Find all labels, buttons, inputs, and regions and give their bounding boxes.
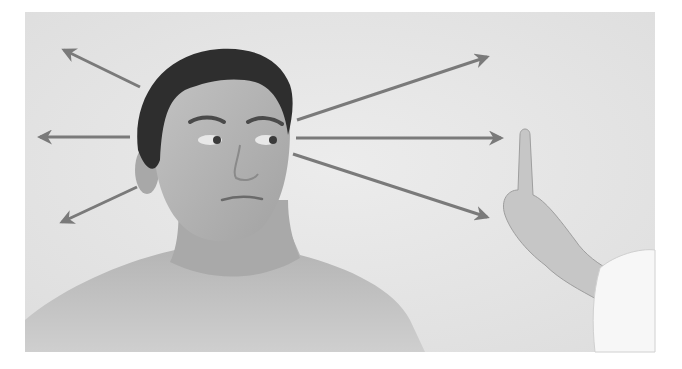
pupil-right [269, 136, 277, 144]
pupil-left [213, 136, 221, 144]
eye-movement-exam-photo [0, 0, 682, 369]
